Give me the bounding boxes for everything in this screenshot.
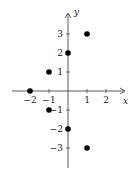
data-point bbox=[84, 31, 90, 37]
data-point bbox=[84, 145, 90, 151]
data-point bbox=[65, 50, 71, 56]
data-point bbox=[27, 88, 33, 94]
data-point bbox=[46, 107, 52, 113]
data-point bbox=[46, 69, 52, 75]
y-tick-label: 2 bbox=[57, 48, 63, 58]
data-point bbox=[65, 126, 71, 132]
x-tick-label: −1 bbox=[42, 95, 55, 105]
scatter-plot: xy−2−112−3−2−1123 bbox=[0, 0, 131, 170]
y-tick-label: 3 bbox=[57, 29, 63, 39]
x-axis-label: x bbox=[123, 96, 128, 106]
x-tick-label: 1 bbox=[84, 95, 90, 105]
y-axis-label: y bbox=[73, 7, 80, 17]
y-tick-label: −2 bbox=[50, 124, 63, 134]
x-tick-label: 2 bbox=[103, 95, 109, 105]
y-tick-label: −3 bbox=[50, 143, 64, 153]
y-tick-label: 1 bbox=[57, 67, 63, 77]
x-tick-label: −2 bbox=[23, 95, 36, 105]
